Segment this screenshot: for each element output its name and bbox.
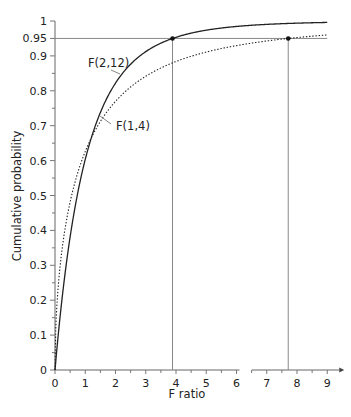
y-tick-label: 0 bbox=[40, 364, 47, 377]
y-tick-label: 1 bbox=[40, 15, 47, 28]
curves bbox=[55, 22, 327, 370]
x-tick-label: 0 bbox=[52, 377, 59, 390]
x-tick-label: 9 bbox=[324, 377, 331, 390]
x-axis-title: F ratio bbox=[169, 387, 206, 401]
y-tick-label: 0.8 bbox=[30, 85, 48, 98]
label-f-1-4: F(1,4) bbox=[116, 119, 150, 133]
y-tick-label: 0.4 bbox=[30, 224, 48, 237]
critical-point-dot-icon bbox=[286, 36, 291, 41]
x-tick-label: 8 bbox=[294, 377, 301, 390]
curve-f-1-4 bbox=[55, 35, 327, 370]
x-tick-label: 2 bbox=[112, 377, 119, 390]
reference-lines bbox=[55, 38, 327, 370]
y-tick-label: 0.6 bbox=[30, 155, 48, 168]
y-axis: 00.10.20.30.40.50.60.70.80.90.951 bbox=[23, 15, 56, 377]
x-tick-label: 6 bbox=[233, 377, 240, 390]
x-axis-arrow-icon bbox=[339, 368, 344, 373]
label-leader-line bbox=[111, 70, 120, 74]
f-distribution-chart: 00.10.20.30.40.50.60.70.80.90.951 012345… bbox=[0, 0, 351, 417]
label-f-2-12: F(2,12) bbox=[88, 56, 129, 70]
y-axis-title: Cumulative probability bbox=[10, 130, 24, 261]
y-tick-label: 0.1 bbox=[30, 329, 48, 342]
y-tick-label: 0.7 bbox=[30, 120, 48, 133]
y-tick-label: 0.9 bbox=[30, 50, 48, 63]
y-tick-label: 0.95 bbox=[23, 32, 48, 45]
critical-point-dot-icon bbox=[170, 36, 175, 41]
x-tick-label: 7 bbox=[263, 377, 270, 390]
curve-f-2-12 bbox=[55, 22, 327, 370]
x-tick-label: 3 bbox=[142, 377, 149, 390]
y-tick-label: 0.3 bbox=[30, 259, 48, 272]
x-tick-label: 1 bbox=[82, 377, 89, 390]
y-tick-label: 0.2 bbox=[30, 294, 48, 307]
y-tick-label: 0.5 bbox=[30, 190, 48, 203]
